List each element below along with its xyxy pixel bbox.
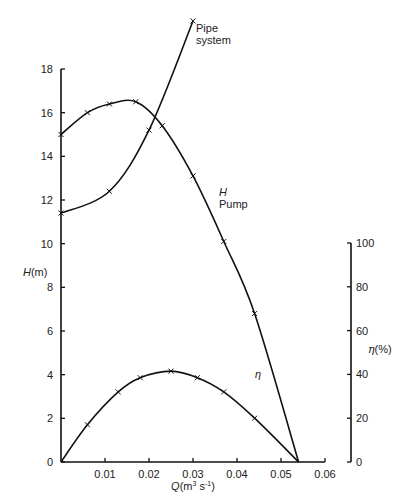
x-tick-label: 0.06: [314, 468, 335, 480]
x-tick-label: 0.03: [182, 468, 203, 480]
y2-tick-label: 20: [356, 412, 368, 424]
pump-characteristic-chart: 0246810121416180.010.020.030.040.050.060…: [0, 0, 409, 500]
x-axis-label: Q(m3 s-1): [171, 480, 215, 492]
pump-label-line1: H: [219, 186, 227, 198]
y-tick-label: 16: [41, 107, 53, 119]
data-point-marker: [221, 389, 226, 394]
x-tick-label: 0.05: [270, 468, 291, 480]
axes: 0246810121416180.010.020.030.040.050.060…: [41, 63, 375, 480]
efficiency-label: η: [255, 368, 261, 380]
y-tick-label: 8: [47, 281, 53, 293]
labels: H(m)η(%)Q(m3 s-1)PipesystemHPumpη: [23, 22, 392, 492]
y2-tick-label: 0: [356, 456, 362, 468]
y-tick-label: 0: [47, 456, 53, 468]
y2-axis-label: η(%): [368, 343, 392, 356]
y-tick-label: 10: [41, 238, 53, 250]
pump-head-curve: [61, 100, 299, 462]
y-tick-label: 6: [47, 325, 53, 337]
y2-tick-label: 100: [356, 237, 374, 249]
pipe-label-line2: system: [196, 34, 231, 46]
y-tick-label: 12: [41, 194, 53, 206]
x-tick-label: 0.01: [94, 468, 115, 480]
y-tick-label: 2: [47, 412, 53, 424]
pipe-label-line1: Pipe: [196, 22, 218, 34]
pump-label-line2: Pump: [219, 198, 248, 210]
data-point-marker: [107, 189, 112, 194]
x-tick-label: 0.04: [226, 468, 247, 480]
y2-tick-label: 80: [356, 281, 368, 293]
data-point-marker: [160, 123, 165, 128]
data-point-marker: [116, 389, 121, 394]
data-point-marker: [85, 110, 90, 115]
y2-tick-label: 40: [356, 368, 368, 380]
y-axis-label: H(m): [23, 266, 47, 278]
x-tick-label: 0.02: [138, 468, 159, 480]
efficiency-curve: [61, 371, 299, 462]
curves: [59, 18, 299, 462]
y2-tick-label: 60: [356, 325, 368, 337]
data-point-marker: [191, 173, 196, 178]
y-tick-label: 18: [41, 63, 53, 75]
data-point-marker: [85, 422, 90, 427]
y-tick-label: 14: [41, 150, 53, 162]
y-tick-label: 4: [47, 369, 53, 381]
data-point-marker: [252, 416, 257, 421]
